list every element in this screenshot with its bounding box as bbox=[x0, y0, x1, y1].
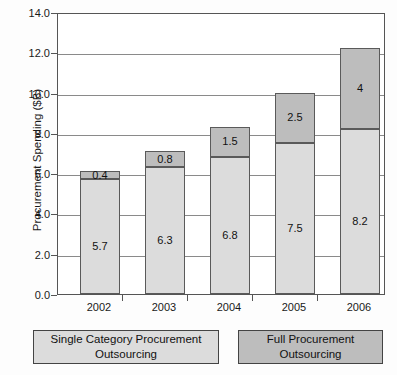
x-tick-label-2004: 2004 bbox=[199, 301, 259, 313]
legend-full-line1: Full Procurement bbox=[267, 333, 355, 345]
bar-value-full-2002: 0.4 bbox=[92, 170, 107, 181]
bar-value-full-2004: 1.5 bbox=[222, 136, 237, 147]
bar-segment-single-2002[interactable]: 5.7 bbox=[80, 179, 120, 294]
bar-value-single-2002: 5.7 bbox=[92, 241, 107, 252]
bar-value-single-2004: 6.8 bbox=[222, 230, 237, 241]
bar-segment-single-2003[interactable]: 6.3 bbox=[145, 167, 185, 294]
bar-value-full-2003: 0.8 bbox=[157, 154, 172, 165]
y-tick-label-12: 12.0 bbox=[10, 47, 50, 59]
bar-segment-single-2006[interactable]: 8.2 bbox=[340, 129, 380, 294]
bar-segment-full-2002[interactable]: 0.4 bbox=[80, 171, 120, 179]
legend-item-single-category[interactable]: Single Category Procurement Outsourcing bbox=[33, 330, 219, 364]
legend-full-line2: Outsourcing bbox=[279, 348, 341, 360]
chart-figure: Procurement Spending ($B) 14.0 12.0 10.0… bbox=[0, 0, 397, 375]
bar-segment-full-2005[interactable]: 2.5 bbox=[275, 93, 315, 143]
legend-single-line2: Outsourcing bbox=[95, 348, 157, 360]
y-tick-label-2: 2.0 bbox=[10, 249, 50, 261]
bar-segment-full-2006[interactable]: 4 bbox=[340, 48, 380, 129]
x-tick-label-2002: 2002 bbox=[69, 301, 129, 313]
y-tick-label-10: 10.0 bbox=[10, 88, 50, 100]
gridline-10 bbox=[58, 95, 384, 96]
legend-single-line1: Single Category Procurement bbox=[51, 333, 202, 345]
bar-segment-full-2004[interactable]: 1.5 bbox=[210, 127, 250, 157]
y-tick-mark-0 bbox=[51, 295, 57, 296]
y-tick-label-4: 4.0 bbox=[10, 208, 50, 220]
bar-value-single-2003: 6.3 bbox=[157, 235, 172, 246]
bar-value-full-2005: 2.5 bbox=[287, 112, 302, 123]
bar-value-full-2006: 4 bbox=[357, 83, 363, 94]
y-tick-label-8: 8.0 bbox=[10, 128, 50, 140]
bar-value-single-2006: 8.2 bbox=[352, 216, 367, 227]
x-tick-label-2006: 2006 bbox=[329, 301, 389, 313]
bar-value-single-2005: 7.5 bbox=[287, 223, 302, 234]
y-tick-label-14: 14.0 bbox=[10, 7, 50, 19]
x-tick-label-2003: 2003 bbox=[134, 301, 194, 313]
legend-item-full-procurement[interactable]: Full Procurement Outsourcing bbox=[238, 330, 383, 364]
bar-segment-single-2004[interactable]: 6.8 bbox=[210, 157, 250, 294]
bar-segment-single-2005[interactable]: 7.5 bbox=[275, 143, 315, 294]
y-tick-label-6: 6.0 bbox=[10, 168, 50, 180]
bar-segment-full-2003[interactable]: 0.8 bbox=[145, 151, 185, 167]
y-tick-label-0: 0.0 bbox=[10, 289, 50, 301]
gridline-12 bbox=[58, 54, 384, 55]
x-tick-label-2005: 2005 bbox=[264, 301, 324, 313]
plot-area: 5.7 0.4 6.3 0.8 6.8 1.5 bbox=[57, 13, 385, 295]
